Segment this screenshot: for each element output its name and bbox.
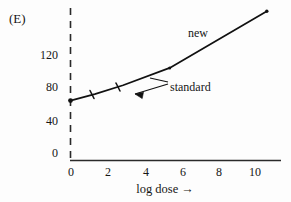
series-label-standard: standard [170, 81, 211, 93]
x-tick-label-8: 8 [209, 166, 229, 178]
x-tick-label-2: 2 [98, 166, 118, 178]
y-tick-label-120: 120 [20, 49, 58, 61]
curve-bend-marker [168, 66, 171, 69]
standard-leader-line [135, 84, 168, 94]
curve-start-marker [68, 98, 73, 103]
x-tick-label-6: 6 [173, 166, 193, 178]
y-tick-label-40: 40 [20, 115, 58, 127]
response-curve [71, 11, 267, 100]
standard-leader-line-upper [150, 78, 168, 82]
x-tick-label-10: 10 [245, 166, 265, 178]
panel-label: (E) [9, 12, 26, 25]
figure-panel: (E) 120 80 40 0 0 2 4 6 8 10 log dose → … [0, 0, 291, 202]
x-axis-title: log dose → [110, 183, 220, 196]
curve-end-marker [265, 10, 268, 13]
x-tick-label-4: 4 [136, 166, 156, 178]
y-tick-label-0: 0 [20, 147, 58, 159]
y-tick-label-80: 80 [20, 81, 58, 93]
series-label-new: new [188, 27, 208, 39]
x-tick-label-0: 0 [61, 166, 81, 178]
